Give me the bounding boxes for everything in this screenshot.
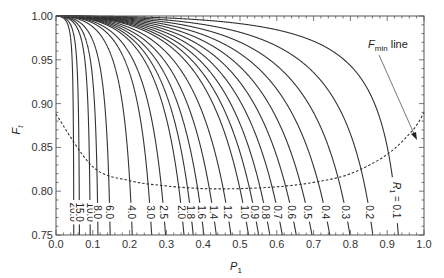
- r1-curve-labels: 20.015.010.08.06.04.03.02.52.01.81.61.41…: [68, 177, 402, 224]
- x-tick-label: 0.6: [269, 238, 284, 250]
- x-axis-title: P1: [230, 260, 242, 275]
- curve-label-r-8.0: 8.0: [92, 205, 103, 219]
- curve-label-r-1.0: 1.0: [239, 205, 250, 219]
- curve-label-r-3.0: 3.0: [145, 205, 156, 219]
- curve-label-r-0.8: 0.8: [260, 205, 271, 219]
- y-tick-label: 0.90: [32, 98, 53, 110]
- x-tick-label: 0.8: [343, 238, 358, 250]
- curve-label-r-6.0: 6.0: [104, 205, 115, 219]
- y-tick-label: 0.80: [32, 185, 53, 197]
- curve-r-0.2: [56, 16, 373, 235]
- curve-label-r-0.1: R1 = 0.1: [389, 182, 402, 219]
- curve-label-r-4.0: 4.0: [126, 205, 137, 219]
- y-axis-title: Ft: [10, 125, 25, 135]
- curve-label-r-0.4: 0.4: [320, 205, 331, 219]
- curve-label-r-1.4: 1.4: [208, 205, 219, 219]
- y-tick-label: 0.95: [32, 54, 53, 66]
- x-tick-label: 0.7: [306, 238, 321, 250]
- curve-label-r-1.6: 1.6: [196, 205, 207, 219]
- curve-label-r-1.8: 1.8: [185, 205, 196, 219]
- curve-label-r-0.2: 0.2: [364, 205, 375, 219]
- curve-label-r-15.0: 15.0: [74, 202, 85, 222]
- y-tick-label: 1.00: [32, 10, 53, 22]
- curve-label-r-0.3: 0.3: [340, 205, 351, 219]
- curve-label-r-0.9: 0.9: [249, 205, 260, 219]
- y-tick-label: 0.75: [32, 229, 53, 241]
- curve-label-r-0.7: 0.7: [272, 205, 283, 219]
- x-tick-label: 0.1: [85, 238, 100, 250]
- x-tick-label: 0.2: [122, 238, 137, 250]
- arrowhead-icon: [411, 132, 417, 140]
- curve-label-r-1.2: 1.2: [222, 205, 233, 219]
- x-tick-label: 0.3: [159, 238, 174, 250]
- curve-label-r-2.5: 2.5: [158, 205, 169, 219]
- x-tick-label: 0.4: [196, 238, 211, 250]
- fmin-line-annotation: Fmin line: [368, 38, 408, 53]
- curve-label-r-0.6: 0.6: [286, 205, 297, 219]
- x-tick-label: 1.0: [416, 238, 431, 250]
- curve-label-r-0.5: 0.5: [302, 205, 313, 219]
- y-tick-label: 0.85: [32, 141, 53, 153]
- curve-r-0.3: [56, 16, 350, 235]
- x-tick-label: 0.9: [380, 238, 395, 250]
- x-tick-label: 0.5: [232, 238, 247, 250]
- fmin-annotation-arrow-line: [379, 55, 415, 136]
- r1-curves: [56, 16, 398, 235]
- ft-correction-chart: 20.015.010.08.06.04.03.02.52.01.81.61.41…: [0, 0, 444, 278]
